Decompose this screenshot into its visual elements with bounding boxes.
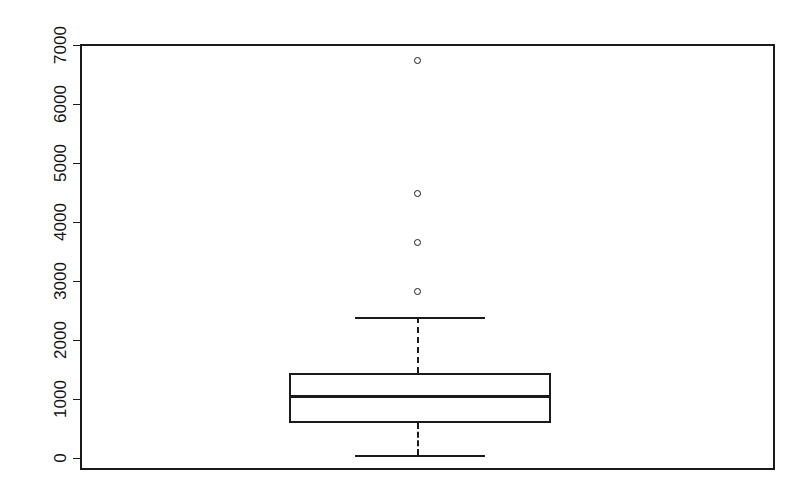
box-iqr-rect [289,373,551,423]
outlier-point [414,288,421,295]
y-axis-tick-label: 6000 [51,75,71,133]
plot-frame-left-edge [80,44,82,468]
median-line [289,395,551,398]
lower-whisker-cap [355,455,485,457]
boxplot-figure: 01000200030004000500060007000 [0,0,808,497]
y-axis-tick-label: 7000 [51,16,71,74]
lower-whisker-line [417,423,419,455]
y-axis-tick-label: 1000 [51,370,71,428]
y-axis-tick-mark [73,104,80,105]
y-axis-tick-label: 0 [51,429,71,487]
outlier-point [414,239,421,246]
y-axis-tick-mark [73,222,80,223]
y-axis-tick-mark [73,45,80,46]
y-axis-tick-label: 4000 [51,193,71,251]
outlier-point [414,190,421,197]
y-axis-tick-mark [73,163,80,164]
y-axis-tick-mark [73,340,80,341]
plot-frame-right-edge [773,44,775,470]
y-axis-tick-mark [73,458,80,459]
upper-whisker-cap [355,317,485,319]
outlier-point [414,57,421,64]
y-axis-tick-label: 2000 [51,311,71,369]
y-axis-tick-label: 3000 [51,252,71,310]
upper-whisker-line [417,317,419,373]
plot-frame-bottom-edge [80,468,773,470]
y-axis-tick-mark [73,399,80,400]
plot-frame-top-edge [80,44,773,46]
y-axis-tick-mark [73,281,80,282]
y-axis-tick-label: 5000 [51,134,71,192]
